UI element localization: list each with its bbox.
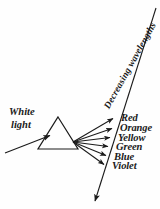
prism-shape (38, 117, 78, 149)
dispersed-rays (73, 119, 113, 165)
white-light-label-line2: light (11, 120, 35, 131)
white-light-label: White light (9, 107, 35, 130)
white-light-label-line1: White (9, 106, 35, 117)
dispersion-diagram: White light Decreasing wavelengths Red O… (0, 0, 160, 209)
incident-white-light-ray (5, 136, 50, 154)
spectrum-label-violet: Violet (112, 161, 137, 172)
diagram-canvas (0, 0, 160, 209)
